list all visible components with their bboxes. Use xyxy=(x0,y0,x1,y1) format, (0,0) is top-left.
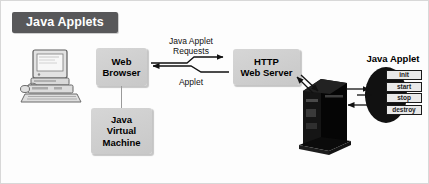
node-http-web-server: HTTP Web Server xyxy=(233,49,300,85)
diagram-title-banner: Java Applets xyxy=(12,12,118,33)
request-arrow xyxy=(151,57,223,63)
web-browser-label-line2: Browser xyxy=(102,67,140,79)
jvm-label-line2: Virtual xyxy=(107,125,136,137)
method-box-init: init xyxy=(386,70,422,80)
request-arrow-label-line1: Java Applet xyxy=(153,36,229,46)
page-title: Java Applets xyxy=(12,12,118,33)
node-web-browser: Web Browser xyxy=(96,48,147,86)
method-box-start: start xyxy=(386,82,422,92)
web-browser-label-line1: Web xyxy=(112,56,132,68)
java-applet-title: Java Applet xyxy=(357,53,429,64)
http-server-label-line1: HTTP xyxy=(254,56,279,68)
jvm-label-line1: Java xyxy=(111,114,132,126)
request-arrow-label-line2: Requests xyxy=(153,46,229,56)
request-arrow-label: Java Applet Requests xyxy=(153,36,229,56)
method-box-stop: stop xyxy=(386,93,422,103)
applet-lifecycle-method-list: init start stop destroy xyxy=(386,70,422,116)
applet-arrow-label: Applet xyxy=(153,77,229,87)
method-box-destroy: destroy xyxy=(386,105,422,115)
applet-arrow xyxy=(153,66,229,72)
desktop-computer-icon xyxy=(19,49,87,104)
java-applets-diagram: Java Applets Web xyxy=(0,0,429,184)
node-java-virtual-machine: Java Virtual Machine xyxy=(91,108,152,154)
http-server-label-line2: Web Server xyxy=(240,67,292,79)
jvm-label-line3: Machine xyxy=(102,137,140,149)
browser-jvm-connector xyxy=(121,86,122,108)
server-tower-icon xyxy=(297,73,359,155)
